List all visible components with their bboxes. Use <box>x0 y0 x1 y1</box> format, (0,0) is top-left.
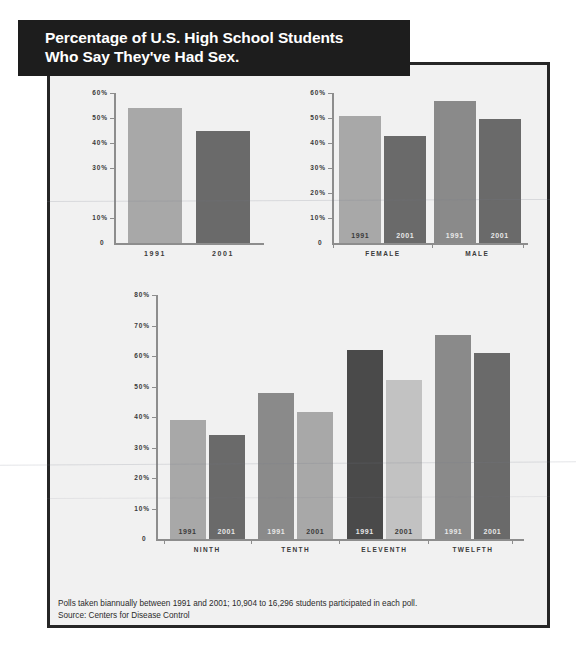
x-tick <box>428 539 429 544</box>
y-tick-label: 80% <box>112 291 150 298</box>
y-tick <box>328 168 333 169</box>
chart-panel: 60%50%40%30%10%019912001 60%50%40%30%20%… <box>47 62 550 628</box>
bar-year-label: 2001 <box>384 232 426 239</box>
bar-year-label: 1991 <box>170 528 206 535</box>
y-tick-label: 30% <box>70 164 108 171</box>
x-axis <box>114 243 264 245</box>
group-label: FEMALE <box>339 250 426 257</box>
y-tick-label: 50% <box>288 114 326 121</box>
x-axis <box>332 243 528 245</box>
bar: 2001 <box>474 353 510 539</box>
y-tick-label: 60% <box>70 89 108 96</box>
x-tick <box>333 243 334 248</box>
chart-by-gender: 60%50%40%30%20%10%01991200119912001FEMAL… <box>288 87 536 262</box>
x-tick <box>523 243 524 248</box>
bar: 1991 <box>435 335 471 539</box>
y-tick <box>110 168 115 169</box>
x-tick <box>251 539 252 544</box>
y-tick <box>152 356 157 357</box>
y-zero-label: 0 <box>142 535 147 542</box>
bar: 2001 <box>297 412 333 539</box>
bar-year-label: 1991 <box>339 232 381 239</box>
x-tick <box>339 539 340 544</box>
y-tick <box>152 509 157 510</box>
y-tick-label: 50% <box>70 114 108 121</box>
bar: 2001 <box>384 136 426 244</box>
y-tick <box>110 143 115 144</box>
y-tick-label: 60% <box>112 352 150 359</box>
bar: 2001 <box>386 380 422 539</box>
bar <box>128 108 182 243</box>
chart-overall: 60%50%40%30%10%019912001 <box>68 87 273 262</box>
x-tick <box>512 539 513 544</box>
bar-year-label: 1991 <box>434 232 476 239</box>
y-tick-label: 20% <box>288 189 326 196</box>
y-tick <box>110 118 115 119</box>
bar-year-label: 1991 <box>347 528 383 535</box>
y-tick-label: 60% <box>288 89 326 96</box>
y-tick <box>110 93 115 94</box>
footnote-line-2: Source: Centers for Disease Control <box>58 610 488 622</box>
bar: 1991 <box>347 350 383 539</box>
group-label: TWELFTH <box>435 546 510 553</box>
bar: 2001 <box>209 435 245 539</box>
y-tick-label: 20% <box>112 474 150 481</box>
title-banner: Percentage of U.S. High School Students … <box>18 20 410 76</box>
footnote-line-1: Polls taken biannually between 1991 and … <box>58 598 488 610</box>
bar-year-label: 2001 <box>297 528 333 535</box>
bar: 1991 <box>434 101 476 244</box>
y-tick-label: 30% <box>112 444 150 451</box>
y-tick-label: 40% <box>288 139 326 146</box>
chart-by-grade: 80%70%60%50%40%30%20%10%0199120011991200… <box>100 287 530 575</box>
bar: 1991 <box>170 420 206 539</box>
y-tick <box>110 218 115 219</box>
y-tick <box>152 478 157 479</box>
x-tick <box>432 243 433 248</box>
x-axis-label: 1991 <box>128 250 182 257</box>
y-tick-label: 70% <box>112 322 150 329</box>
bar-year-label: 2001 <box>474 528 510 535</box>
group-label: TENTH <box>258 546 333 553</box>
y-tick <box>152 448 157 449</box>
bar: 1991 <box>258 393 294 539</box>
group-label: MALE <box>434 250 521 257</box>
y-zero-label: 0 <box>318 239 323 246</box>
bar-year-label: 1991 <box>258 528 294 535</box>
y-tick-label: 40% <box>70 139 108 146</box>
group-label: NINTH <box>170 546 245 553</box>
bar-year-label: 1991 <box>435 528 471 535</box>
footnote: Polls taken biannually between 1991 and … <box>58 598 488 621</box>
y-tick <box>328 193 333 194</box>
y-tick <box>152 295 157 296</box>
y-tick <box>328 143 333 144</box>
y-tick-label: 10% <box>288 214 326 221</box>
y-tick <box>152 387 157 388</box>
y-tick <box>328 93 333 94</box>
y-tick <box>328 218 333 219</box>
y-zero-label: 0 <box>100 239 105 246</box>
group-label: ELEVENTH <box>347 546 422 553</box>
y-tick-label: 30% <box>288 164 326 171</box>
bar: 1991 <box>339 116 381 244</box>
bar-year-label: 2001 <box>209 528 245 535</box>
x-axis-label: 2001 <box>196 250 250 257</box>
y-tick-label: 40% <box>112 413 150 420</box>
x-tick <box>164 539 165 544</box>
y-tick <box>152 326 157 327</box>
y-tick-label: 10% <box>70 214 108 221</box>
y-tick-label: 10% <box>112 505 150 512</box>
title-line-2: Who Say They've Had Sex. <box>45 47 410 66</box>
y-tick <box>328 118 333 119</box>
chart-page: 60%50%40%30%10%019912001 60%50%40%30%20%… <box>0 0 576 647</box>
bar <box>196 131 250 244</box>
y-tick <box>152 417 157 418</box>
bar-year-label: 2001 <box>386 528 422 535</box>
bar-year-label: 2001 <box>479 232 521 239</box>
bar: 2001 <box>479 119 521 243</box>
y-tick-label: 50% <box>112 383 150 390</box>
title-line-1: Percentage of U.S. High School Students <box>45 28 410 47</box>
